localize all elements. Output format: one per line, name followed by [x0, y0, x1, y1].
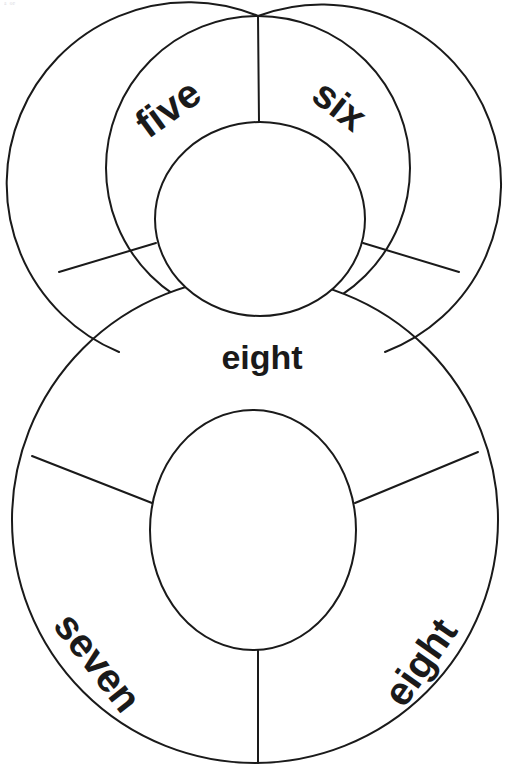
top-divider-vertical: [258, 16, 259, 122]
worksheet-canvas: ᵃ ᵒᵉ five six eight seven eigh: [0, 0, 513, 780]
bottom-wheel-inner-oval: [150, 410, 356, 650]
figure-eight-number-wheel: five six eight seven eight: [0, 0, 513, 780]
segment-label-center-eight: eight: [221, 338, 302, 376]
top-wheel-inner-circle: [155, 122, 365, 316]
